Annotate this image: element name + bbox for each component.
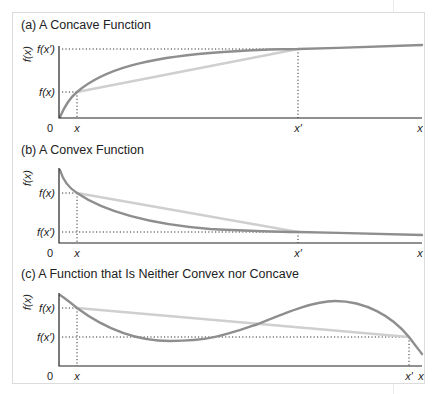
panel-c-origin: 0 [47, 370, 53, 382]
panel-b-ytick-low: f(x′) [37, 226, 55, 238]
panel-a-ylabel: f(x) [21, 46, 33, 62]
panel-b-ylabel: f(x) [21, 170, 33, 186]
panel-a-axes [59, 46, 422, 118]
panel-c-xtick-end: x [417, 370, 424, 382]
panel-c-neither: (c) A Function that Is Neither Convex no… [21, 267, 424, 382]
panel-a-origin: 0 [47, 122, 53, 134]
panel-a-ytick-high: f(x′) [37, 43, 55, 55]
panel-b-xtick-end: x [416, 247, 423, 259]
panel-a-title: (a) A Concave Function [21, 18, 151, 32]
panel-c-title: (c) A Function that Is Neither Convex no… [21, 267, 299, 281]
panel-b-xtick-xprime: x′ [293, 247, 303, 259]
panel-b-origin: 0 [47, 247, 53, 259]
panel-a-ytick-low: f(x) [39, 86, 55, 98]
panel-b-convex: (b) A Convex Function f(x) f(x) f(x′) 0 … [21, 143, 423, 259]
panel-c-ylabel: f(x) [21, 294, 33, 310]
panel-c-ytick-low: f(x′) [37, 331, 55, 343]
figure-canvas: (a) A Concave Function f(x) f(x′) f(x) 0… [0, 0, 439, 394]
panel-c-xtick-x: x [73, 370, 80, 382]
panel-c-chord [77, 308, 409, 337]
panel-b-xtick-x: x [73, 247, 80, 259]
panel-a-concave: (a) A Concave Function f(x) f(x′) f(x) 0… [21, 18, 423, 134]
panel-b-title: (b) A Convex Function [21, 143, 144, 157]
panel-c-xtick-xprime: x′ [404, 370, 414, 382]
panel-c-curve [60, 295, 422, 354]
panel-b-ytick-high: f(x) [39, 187, 55, 199]
panel-a-xtick-end: x [416, 122, 423, 134]
panel-a-curve [60, 45, 422, 117]
panel-b-curve [60, 170, 422, 235]
panel-a-xtick-x: x [73, 122, 80, 134]
panel-c-ytick-high: f(x) [39, 302, 55, 314]
panel-a-xtick-xprime: x′ [293, 122, 303, 134]
